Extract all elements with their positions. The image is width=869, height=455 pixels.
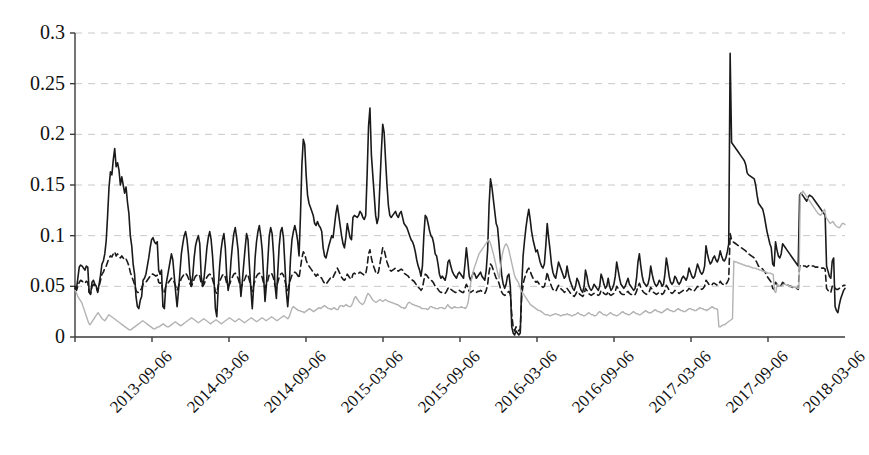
y-tick-label-4: 0.2 [5,123,65,143]
series-line-solid-black [75,53,845,335]
y-tick-label-0: 0 [5,326,65,346]
data-series-group [75,53,845,335]
y-tick-label-3: 0.15 [5,174,65,194]
y-tick-label-5: 0.25 [5,73,65,93]
y-tick-marks-group [70,33,75,337]
y-tick-label-2: 0.1 [5,225,65,245]
y-tick-label-6: 0.3 [5,22,65,42]
y-tick-label-1: 0.05 [5,275,65,295]
x-tick-marks-group [75,337,768,342]
